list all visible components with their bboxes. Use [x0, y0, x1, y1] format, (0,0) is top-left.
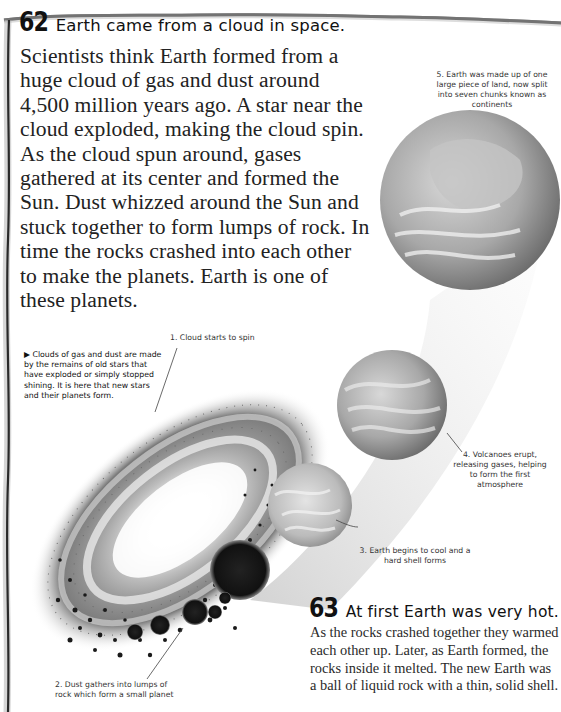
caption-step1: 1. Cloud starts to spin	[170, 333, 280, 343]
caption-step1-text: Cloud starts to spin	[180, 333, 255, 342]
leader-step2	[147, 628, 183, 679]
caption-step2-number: 2.	[55, 680, 62, 689]
side-note: ▶ Clouds of gas and dust are made by the…	[24, 350, 164, 401]
caption-step3: 3. Earth begins to cool and a hard shell…	[350, 546, 480, 566]
triangle-bullet-icon: ▶	[24, 350, 30, 359]
planet-volcanic	[337, 350, 447, 460]
caption-step5-text: Earth was made up of one large piece of …	[437, 70, 548, 109]
section-63-heading: 63 At first Earth was very hot.	[309, 592, 559, 623]
caption-step2-text: Dust gathers into lumps of rock which fo…	[55, 680, 173, 699]
caption-step4-number: 4.	[463, 450, 470, 459]
section-63-title: At first Earth was very hot.	[346, 603, 559, 621]
planet-supercontinent	[380, 110, 560, 290]
caption-step5: 5. Earth was made up of one large piece …	[432, 70, 552, 110]
caption-step4: 4. Volcanoes erupt, releasing gases, hel…	[450, 450, 550, 490]
section-62-number: 62	[19, 6, 48, 37]
caption-step3-number: 3.	[360, 546, 367, 555]
planet-cooling	[268, 463, 352, 547]
caption-step5-number: 5.	[437, 70, 444, 79]
side-note-text: Clouds of gas and dust are made by the r…	[24, 350, 161, 400]
caption-step3-text: Earth begins to cool and a hard shell fo…	[369, 546, 470, 565]
leader-step3	[336, 520, 358, 527]
dust-particles	[56, 469, 274, 658]
section-62-heading: 62 Earth came from a cloud in space.	[19, 6, 345, 37]
rock-lumps	[127, 540, 270, 640]
section-63-number: 63	[309, 592, 338, 623]
section-62-body: Scientists think Earth formed from a hug…	[20, 44, 370, 312]
page-frame-left	[0, 10, 16, 712]
section-62-title: Earth came from a cloud in space.	[56, 16, 346, 35]
caption-step1-number: 1.	[170, 333, 177, 342]
section-63-body: As the rocks crashed together they warme…	[310, 624, 560, 695]
caption-step2: 2. Dust gathers into lumps of rock which…	[55, 680, 185, 700]
